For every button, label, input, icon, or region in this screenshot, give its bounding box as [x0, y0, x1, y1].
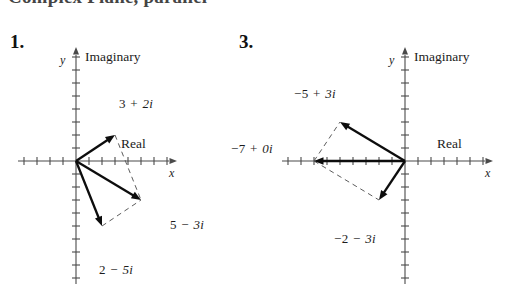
complex-point-label-1-1: −7 + 0i [231, 141, 273, 157]
complex-vector-arrowhead [340, 122, 350, 130]
complex-point-label-0-1: 5 − 3i [170, 217, 204, 233]
real-axis-label-1: Real [437, 136, 462, 152]
complex-vector-arrowhead [379, 190, 387, 200]
dashed-construction-line [314, 122, 340, 161]
complex-vector-arrowhead [105, 135, 115, 143]
x-axis-arrowhead [486, 158, 494, 164]
complex-point-label-1-2: −2 − 3i [334, 231, 376, 247]
dashed-construction-line [102, 200, 141, 226]
complex-point-label-0-0: 3 + 2i [119, 96, 153, 112]
complex-plane-figure-root: Complex Plane, parallel 1. 3. yImaginary… [0, 0, 521, 308]
complex-point-label-0-2: 2 − 5i [99, 262, 133, 278]
imaginary-axis-label-0: Imaginary [85, 49, 140, 65]
argand-diagram-1 [18, 47, 177, 284]
complex-point-label-1-0: −5 + 3i [294, 86, 336, 102]
complex-vector-line [344, 125, 405, 161]
y-axis-arrowhead [73, 47, 79, 55]
x-axis-arrowhead [170, 158, 178, 164]
y-axis-variable-label-0: y [60, 53, 65, 68]
complex-vector-line [76, 138, 111, 161]
dashed-construction-line [314, 161, 379, 200]
y-axis-variable-label-1: y [389, 53, 394, 68]
complex-vector-line [76, 161, 100, 221]
complex-vector-arrowhead [95, 216, 102, 226]
x-axis-variable-label-1: x [485, 166, 490, 181]
real-axis-label-0: Real [121, 136, 146, 152]
argand-diagram-3 [282, 47, 493, 284]
y-axis-arrowhead [402, 47, 408, 55]
complex-vector-line [382, 161, 405, 196]
complex-vector-line [76, 161, 137, 197]
imaginary-axis-label-1: Imaginary [414, 49, 469, 65]
x-axis-variable-label-0: x [169, 166, 174, 181]
